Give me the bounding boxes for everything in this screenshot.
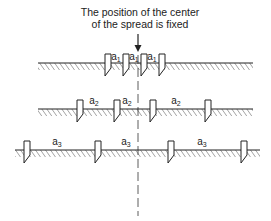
spacing-label: a3 — [197, 136, 207, 148]
spacing-label: a1 — [111, 51, 121, 63]
ground-hatch — [38, 109, 253, 116]
down-arrow-icon — [135, 34, 142, 52]
spacing-label: a3 — [52, 136, 62, 148]
electrode-spread-diagram: The position of the center of the spread… — [0, 0, 271, 221]
electrode-icon — [168, 141, 174, 163]
spacing-label: a2 — [171, 95, 181, 107]
caption-line-2: of the spread is fixed — [92, 18, 189, 30]
ground-hatch — [15, 150, 260, 157]
electrode-icon — [159, 54, 165, 76]
electrode-icon — [150, 100, 156, 122]
spacing-label: a3 — [121, 136, 131, 148]
electrode-icon — [205, 100, 211, 122]
electrode-icon — [95, 141, 101, 163]
electrode-icon — [123, 54, 129, 76]
spacing-label: a1 — [147, 51, 157, 63]
electrode-icon — [141, 54, 147, 76]
row-2: a2a2a2 — [38, 95, 253, 122]
spacing-label: a2 — [89, 95, 99, 107]
row-1: a1a1a1 — [38, 51, 253, 76]
electrode-icon — [105, 54, 111, 76]
caption-line-1: The position of the center — [81, 6, 200, 18]
spacing-label: a2 — [122, 95, 132, 107]
electrode-icon — [77, 100, 83, 122]
electrode-icon — [24, 141, 30, 163]
row-3: a3a3a3 — [15, 136, 260, 163]
electrode-icon — [241, 141, 247, 163]
spacing-label: a1 — [129, 51, 139, 63]
electrode-icon — [114, 100, 120, 122]
